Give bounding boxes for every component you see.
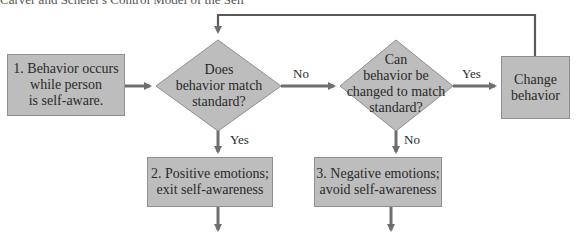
change-behavior-box: Change behavior [501,56,570,119]
flowchart-connectors [0,0,577,238]
decision-change-text: Can behavior be changed to match standar… [335,48,457,120]
positive-emotions-box: 2. Positive emotions; exit self-awarenes… [147,157,273,207]
edge-label-change-no: No [404,132,420,148]
decision-match-text: Does behavior match standard? [160,58,278,114]
edge-label-match-no: No [293,66,309,82]
edge-label-change-yes: Yes [462,66,481,82]
start-box: 1. Behavior occurs while person is self-… [7,54,125,116]
negative-emotions-box: 3. Negative emotions; avoid self-awarene… [314,157,442,207]
edge-label-match-yes: Yes [230,132,249,148]
